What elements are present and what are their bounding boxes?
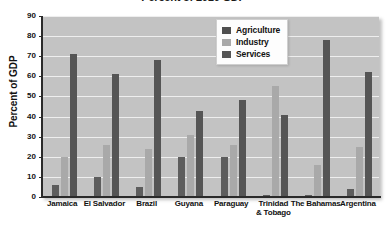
y-axis-tick <box>39 177 43 178</box>
legend-item-agriculture: Agriculture <box>222 24 280 36</box>
x-axis-line <box>41 196 381 198</box>
y-axis-tick-label: 30 <box>12 132 36 141</box>
legend-swatch-industry <box>222 39 231 46</box>
y-axis-tick-label: 70 <box>12 51 36 60</box>
bar-services <box>112 74 119 197</box>
y-axis-tick-label: 20 <box>12 152 36 161</box>
bar-industry <box>230 145 237 197</box>
bar-agriculture <box>94 177 101 197</box>
chart-title: Percent of 2010 GDP <box>0 0 387 3</box>
legend-swatch-services <box>222 51 231 58</box>
legend-item-industry: Industry <box>222 36 280 48</box>
x-axis-label: Argentina <box>327 199 387 208</box>
y-axis-tick <box>39 96 43 97</box>
y-axis-tick-label: 40 <box>12 112 36 121</box>
y-axis-tick <box>39 56 43 57</box>
y-axis-tick-label: 60 <box>12 71 36 80</box>
gridline <box>43 16 379 17</box>
y-axis-tick-label: 10 <box>12 172 36 181</box>
y-axis-tick <box>39 137 43 138</box>
y-axis-tick <box>39 76 43 77</box>
plot-area <box>41 16 379 197</box>
bar-services <box>196 111 203 197</box>
y-axis-tick-label: 80 <box>12 31 36 40</box>
bar-industry <box>103 145 110 197</box>
y-axis-tick-label: 50 <box>12 91 36 100</box>
bar-services <box>323 40 330 197</box>
bar-services <box>281 115 288 197</box>
bar-industry <box>356 147 363 197</box>
chart-legend: Agriculture Industry Services <box>216 19 288 65</box>
bar-industry <box>187 135 194 197</box>
bar-industry <box>272 86 279 197</box>
legend-label-agriculture: Agriculture <box>236 25 280 35</box>
bar-agriculture <box>221 157 228 197</box>
bar-industry <box>61 157 68 197</box>
bar-services <box>239 100 246 197</box>
legend-label-industry: Industry <box>236 37 269 47</box>
legend-label-services: Services <box>236 49 270 59</box>
bar-agriculture <box>178 157 185 197</box>
y-axis-tick <box>39 157 43 158</box>
bar-industry <box>314 165 321 197</box>
y-axis-tick <box>39 117 43 118</box>
bar-industry <box>145 149 152 197</box>
chart-figure: Percent of 2010 GDP Percent of GDP 01020… <box>0 0 387 234</box>
y-axis-tick <box>39 16 43 17</box>
bar-services <box>365 72 372 197</box>
legend-item-services: Services <box>222 48 280 60</box>
legend-swatch-agriculture <box>222 27 231 34</box>
y-axis-tick <box>39 36 43 37</box>
y-axis-tick-label: 90 <box>12 11 36 20</box>
bar-services <box>70 54 77 197</box>
bar-services <box>154 60 161 197</box>
gridline <box>43 36 379 37</box>
